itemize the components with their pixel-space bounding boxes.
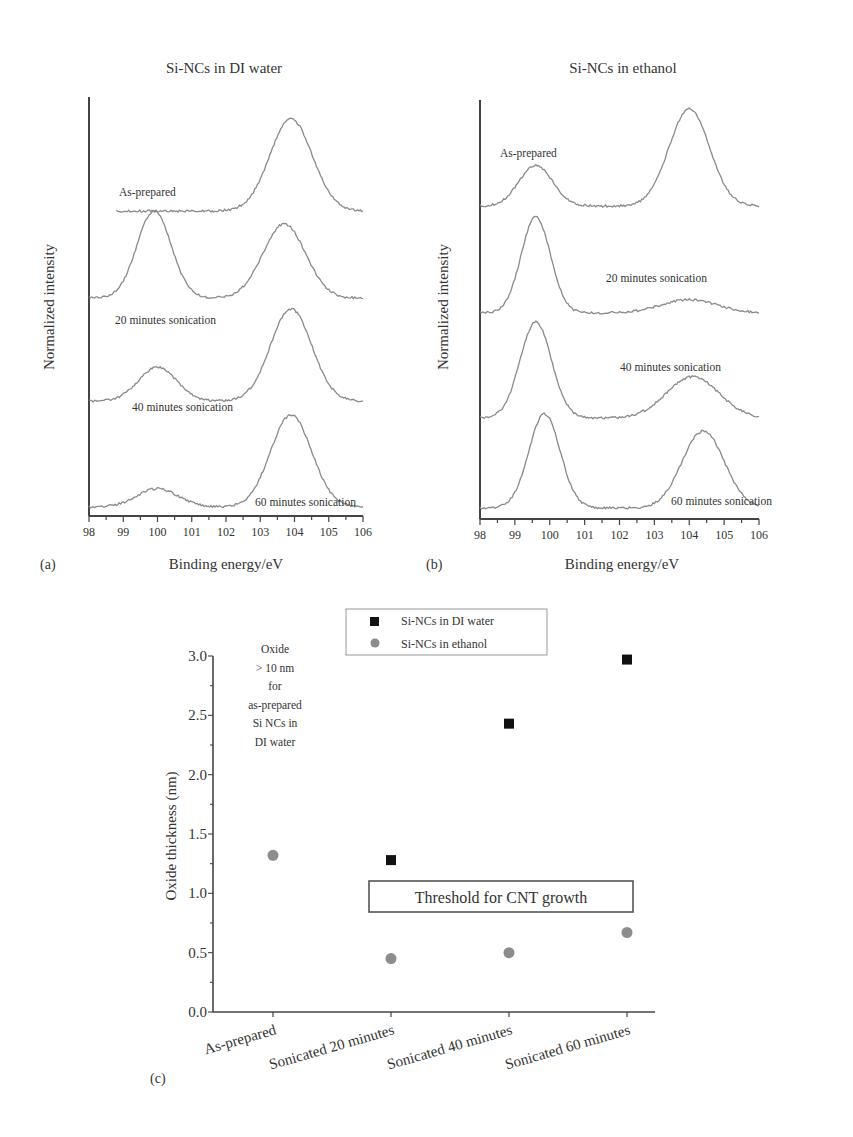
x-tick-label: 99 <box>117 525 129 539</box>
legend-square-icon <box>370 617 379 626</box>
legend: Si-NCs in DI water Si-NCs in ethanol <box>346 609 547 655</box>
curve-label: 60 minutes sonication <box>255 496 356 508</box>
threshold-box: Threshold for CNT growth <box>369 881 633 912</box>
panel-a-curve-labels: As-prepared 20 minutes sonication 40 min… <box>115 186 356 508</box>
annotation-line: > 10 nm <box>256 662 294 674</box>
x-tick-label: 102 <box>611 528 629 542</box>
spectrum-curve <box>89 415 363 508</box>
x-tick-label: 105 <box>320 525 338 539</box>
curve-label: As-prepared <box>119 186 176 199</box>
panel-c-ylabel: Oxide thickness (nm) <box>163 771 180 900</box>
annotation-line: for <box>268 680 282 692</box>
curve-label: As-prepared <box>500 147 557 160</box>
panel-b-label: (b) <box>426 557 443 573</box>
y-tick-label: 0.0 <box>188 1004 207 1020</box>
curve-label: 20 minutes sonication <box>606 272 707 284</box>
x-tick-label: 98 <box>83 525 95 539</box>
panel-c-label: (c) <box>150 1071 166 1087</box>
panel-a-title: Si-NCs in DI water <box>166 60 282 76</box>
panel-a: Si-NCs in DI water Normalized intensity … <box>40 60 372 573</box>
spectrum-curve <box>480 216 759 314</box>
data-point-square <box>622 655 632 665</box>
x-tick-label: 103 <box>251 525 269 539</box>
x-tick-label: 99 <box>509 528 521 542</box>
annotation-line: Si NCs in <box>253 717 298 729</box>
legend-ethanol: Si-NCs in ethanol <box>401 637 488 651</box>
x-tick-label: 106 <box>354 525 372 539</box>
data-point-circle <box>386 953 397 964</box>
x-tick-label: 104 <box>680 528 698 542</box>
y-tick-label: 0.5 <box>188 945 207 961</box>
y-tick-label: 2.0 <box>188 767 207 783</box>
x-tick-label: 104 <box>286 525 304 539</box>
legend-circle-icon <box>371 639 380 648</box>
annotation-line: DI water <box>255 736 296 748</box>
curve-label: 40 minutes sonication <box>620 361 721 373</box>
spectrum-curve <box>116 118 363 212</box>
panel-a-label: (a) <box>40 557 56 573</box>
panel-a-ylabel: Normalized intensity <box>41 243 57 370</box>
panel-b-ylabel: Normalized intensity <box>435 243 451 370</box>
x-tick-label: 101 <box>576 528 594 542</box>
panel-c-xticklabels: As-preparedSonicated 20 minutesSonicated… <box>202 1021 632 1072</box>
x-tick-label: 100 <box>541 528 559 542</box>
panel-b-curves <box>480 108 759 509</box>
x-tick-label: 101 <box>183 525 201 539</box>
x-tick-label: 100 <box>149 525 167 539</box>
annotation-line: Oxide <box>261 643 289 655</box>
x-tick-label: Sonicated 40 minutes <box>385 1021 514 1072</box>
figure: Si-NCs in DI water Normalized intensity … <box>0 0 853 1137</box>
data-point-square <box>386 855 396 865</box>
spectrum-curve <box>89 211 363 299</box>
y-tick-label: 2.5 <box>188 707 207 723</box>
panel-c-points <box>268 655 633 965</box>
panel-a-xlabel: Binding energy/eV <box>169 556 283 572</box>
x-tick-label: 106 <box>750 528 768 542</box>
x-tick-label: As-prepared <box>202 1021 278 1057</box>
x-tick-label: 102 <box>217 525 235 539</box>
data-point-circle <box>504 947 515 958</box>
y-tick-label: 1.5 <box>188 826 207 842</box>
x-tick-label: Sonicated 20 minutes <box>267 1021 396 1072</box>
curve-label: 60 minutes sonication <box>671 495 772 507</box>
x-tick-label: 105 <box>715 528 733 542</box>
x-tick-label: 103 <box>645 528 663 542</box>
panel-c: Oxide thickness (nm) (c) 0.00.51.01.52.0… <box>150 609 655 1087</box>
annotation-line: as-prepared <box>248 699 302 712</box>
x-tick-label: 98 <box>474 528 486 542</box>
legend-water: Si-NCs in DI water <box>401 614 494 628</box>
curve-label: 40 minutes sonication <box>132 401 233 413</box>
curve-label: 20 minutes sonication <box>115 314 216 326</box>
data-point-square <box>504 719 514 729</box>
oxide-annotation: Oxide > 10 nm for as-prepared Si NCs in … <box>248 643 302 748</box>
data-point-circle <box>268 850 279 861</box>
y-tick-label: 1.0 <box>188 885 207 901</box>
threshold-label: Threshold for CNT growth <box>415 889 588 907</box>
panel-b: Si-NCs in ethanol Normalized intensity B… <box>426 60 772 573</box>
data-point-circle <box>622 927 633 938</box>
y-tick-label: 3.0 <box>188 648 207 664</box>
panel-b-xlabel: Binding energy/eV <box>565 556 679 572</box>
panel-b-axes: 9899100101102103104105106 <box>474 100 768 542</box>
panel-b-title: Si-NCs in ethanol <box>569 60 677 76</box>
x-tick-label: Sonicated 60 minutes <box>503 1021 632 1072</box>
